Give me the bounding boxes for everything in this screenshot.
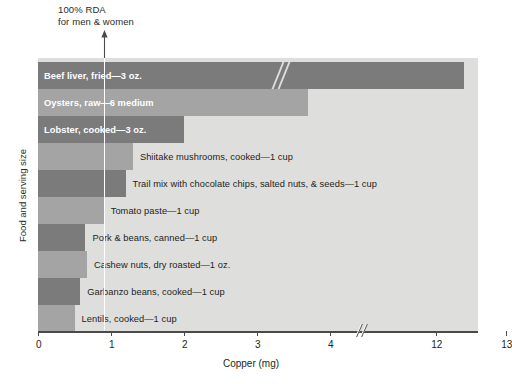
bar-label: Beef liver, fried—3 oz. (44, 71, 142, 81)
x-tick-label: 0 (36, 339, 42, 350)
x-tick (257, 331, 258, 336)
x-tick-label: 4 (328, 339, 334, 350)
bar[interactable] (38, 197, 104, 224)
x-tick-label: 13 (501, 339, 512, 350)
x-tick-label: 2 (182, 339, 188, 350)
x-tick-label: 12 (431, 339, 442, 350)
bar-label: Garbanzo beans, cooked—1 cup (87, 287, 224, 297)
x-axis-title: Copper (mg) (0, 358, 502, 369)
bar-label: Pork & beans, canned—1 cup (92, 233, 217, 243)
plot-area: Beef liver, fried—3 oz.Oysters, raw—6 me… (38, 58, 478, 331)
x-tick (184, 331, 185, 336)
x-tick (436, 331, 437, 336)
x-tick (111, 331, 112, 336)
bar[interactable] (38, 305, 75, 332)
bar-label: Cashew nuts, dry roasted—1 oz. (94, 260, 230, 270)
bar-label: Oysters, raw—6 medium (44, 98, 154, 108)
bar-label: Tomato paste—1 cup (111, 206, 200, 216)
x-tick-label: 3 (255, 339, 261, 350)
bar-label: Trail mix with chocolate chips, salted n… (133, 179, 377, 189)
bar[interactable] (38, 224, 85, 251)
bar-break-icon (275, 61, 291, 90)
x-tick (506, 331, 507, 336)
x-tick (330, 331, 331, 336)
bar-label: Shiitake mushrooms, cooked—1 cup (140, 152, 293, 162)
bar-label: Lentils, cooked—1 cup (82, 314, 177, 324)
rda-annotation-label: 100% RDA for men & women (58, 4, 134, 27)
up-arrow-icon (101, 30, 108, 60)
bar-label: Lobster, cooked—3 oz. (44, 125, 146, 135)
bar[interactable] (38, 278, 80, 305)
bar[interactable] (38, 251, 87, 278)
rda-reference-line (104, 58, 106, 331)
x-tick (38, 331, 39, 336)
x-tick-label: 1 (109, 339, 115, 350)
x-axis-break-icon (355, 324, 371, 337)
bar[interactable] (38, 170, 126, 197)
bar[interactable] (38, 143, 133, 170)
y-axis-title: Food and serving size (17, 101, 28, 291)
